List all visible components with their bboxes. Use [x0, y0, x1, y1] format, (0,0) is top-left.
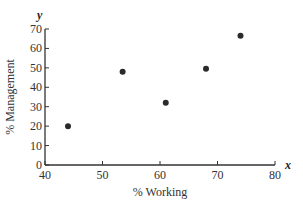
- x-tick-label: 80: [269, 168, 281, 182]
- y-tick-label: 60: [30, 41, 42, 55]
- y-axis-variable: y: [35, 8, 43, 22]
- x-tick-label: 60: [154, 168, 166, 182]
- scatter-chart: 4050607080010203040506070yx% Working% Ma…: [0, 0, 303, 205]
- data-point: [163, 100, 169, 106]
- y-tick-label: 50: [30, 61, 42, 75]
- data-point: [120, 69, 126, 75]
- data-point: [65, 123, 71, 129]
- x-axis-title: % Working: [133, 185, 187, 199]
- data-point: [203, 66, 209, 72]
- y-tick-label: 10: [30, 139, 42, 153]
- x-tick-label: 50: [97, 168, 109, 182]
- y-tick-label: 40: [30, 80, 42, 94]
- data-point: [238, 33, 244, 39]
- y-tick-label: 0: [36, 158, 42, 172]
- y-tick-label: 70: [30, 22, 42, 36]
- x-tick-label: 70: [212, 168, 224, 182]
- y-tick-label: 20: [30, 119, 42, 133]
- y-tick-label: 30: [30, 100, 42, 114]
- x-axis-variable: x: [284, 158, 291, 172]
- y-axis-title: % Management: [3, 59, 17, 135]
